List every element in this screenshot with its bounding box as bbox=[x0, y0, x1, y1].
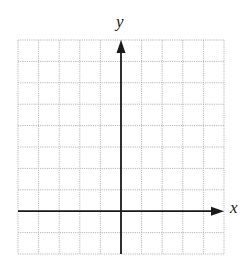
x-axis-label: x bbox=[230, 199, 238, 216]
y-axis-arrow-icon bbox=[117, 40, 126, 53]
x-axis-arrow-icon bbox=[211, 207, 224, 216]
y-axis-label: y bbox=[116, 13, 124, 30]
coordinate-grid-canvas bbox=[0, 0, 248, 266]
